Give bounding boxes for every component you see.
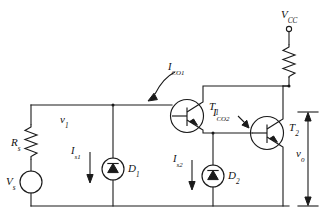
label-supply-vcc: VCC bbox=[281, 9, 297, 20]
source-vs bbox=[20, 171, 42, 193]
branch-d2 bbox=[212, 132, 215, 207]
wire-t2-emitter bbox=[281, 146, 284, 207]
label-transistor-t2: T2 bbox=[289, 122, 299, 133]
label-diode-d1: D1 bbox=[128, 163, 140, 174]
label-transistor-t1: T1 bbox=[209, 101, 219, 112]
circuit-diagram: Rs v1 Vs Is1 D1 Is2 D2 ICO1 ICO2 T1 T2 V… bbox=[0, 0, 331, 220]
diode-d2 bbox=[202, 165, 224, 187]
terminal-vcc bbox=[286, 26, 291, 31]
current-arrow-ico1 bbox=[148, 72, 175, 101]
diode-d1 bbox=[102, 158, 124, 180]
label-current-is1: Is1 bbox=[71, 146, 81, 157]
wire-left-top bbox=[31, 105, 172, 124]
resistor-rs bbox=[25, 124, 37, 160]
resistor-rc bbox=[283, 44, 295, 78]
wire-t1-emitter bbox=[201, 129, 253, 134]
label-current-is2: Is2 bbox=[173, 154, 183, 165]
label-current-ico1: ICO1 bbox=[168, 62, 185, 73]
label-diode-d2: D2 bbox=[228, 170, 240, 181]
label-source-voltage: Vs bbox=[6, 176, 16, 187]
current-arrow-is1 bbox=[87, 152, 93, 183]
label-input-voltage: v1 bbox=[60, 114, 69, 125]
current-arrow-ico2 bbox=[238, 116, 249, 128]
wire-t2-collector bbox=[281, 85, 291, 121]
transistor-t1 bbox=[171, 100, 204, 133]
label-output-voltage: vo bbox=[296, 148, 305, 159]
schematic-canvas bbox=[0, 0, 331, 220]
transistor-t2 bbox=[251, 117, 284, 150]
branch-d1 bbox=[112, 104, 115, 207]
label-source-resistor: Rs bbox=[11, 137, 21, 148]
current-arrow-is2 bbox=[189, 160, 195, 190]
